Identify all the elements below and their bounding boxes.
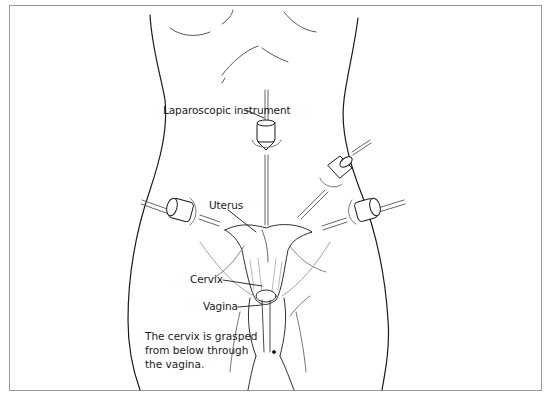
caption-line-3: the vagina. — [145, 357, 275, 371]
label-laparoscopic-instrument: Laparoscopic instrument — [163, 104, 291, 117]
instrument-right — [322, 197, 405, 230]
caption-line-2: from below through — [145, 343, 275, 357]
ribcage-lines — [170, 10, 316, 83]
caption-line-1: The cervix is grasped — [145, 329, 275, 343]
label-vagina: Vagina — [203, 300, 238, 313]
label-uterus: Uterus — [209, 199, 243, 212]
label-cervix: Cervix — [190, 273, 223, 286]
figure-caption: The cervix is grasped from below through… — [145, 329, 275, 371]
